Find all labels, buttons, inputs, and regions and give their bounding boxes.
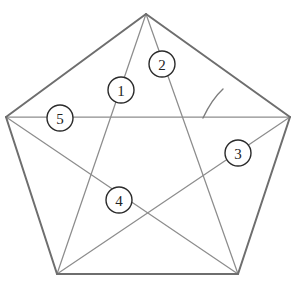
edge-right — [238, 117, 290, 274]
label-3-text: 3 — [234, 146, 242, 162]
pentagon-diagram-canvas: 12345 — [0, 0, 305, 283]
label-5: 5 — [47, 105, 73, 131]
label-5-text: 5 — [56, 111, 64, 127]
label-3: 3 — [225, 140, 251, 166]
label-1: 1 — [108, 77, 134, 103]
angle-arc-mark — [203, 89, 223, 118]
diagonal-right-to-bottom-left — [57, 117, 290, 274]
pentagon-diagram: 12345 — [0, 0, 305, 283]
diagonal-apex-to-bottom-left — [57, 14, 146, 274]
label-2: 2 — [149, 51, 175, 77]
label-4: 4 — [106, 187, 132, 213]
label-1-text: 1 — [117, 83, 125, 99]
label-2-text: 2 — [158, 57, 166, 73]
edge-left — [6, 117, 57, 274]
label-4-text: 4 — [115, 193, 123, 209]
number-labels-group: 12345 — [47, 51, 251, 213]
